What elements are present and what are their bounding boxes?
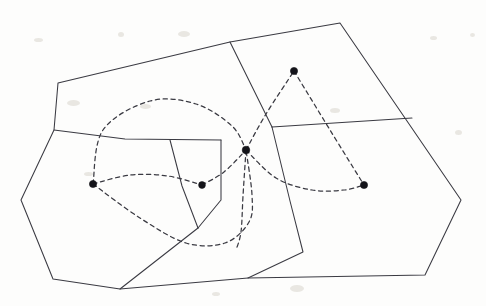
dashed-edge-middle-dot-to-hub	[202, 150, 246, 185]
solid-edge-upper-left-chord	[54, 130, 221, 140]
solid-edge-right-horizontal	[272, 118, 412, 127]
scan-speck	[84, 172, 93, 176]
dashed-edge-top-dot-to-right-dot	[294, 71, 364, 185]
scan-speck	[140, 104, 151, 109]
solid-edge-inner-cell-spine	[170, 140, 198, 228]
solid-edge-center-descent	[248, 127, 303, 278]
scan-speck	[470, 33, 475, 37]
vertex-hub-dot	[242, 146, 250, 154]
vertex-middle-dot	[199, 182, 206, 189]
scan-speck	[455, 130, 462, 135]
scan-speck	[330, 108, 340, 113]
scan-speck	[67, 100, 80, 106]
dashed-edge-hub-to-right-dot-arc	[246, 150, 364, 191]
scan-speck	[34, 38, 43, 42]
solid-edge-long-diagonal	[120, 228, 198, 289]
dashed-edge-hub-to-top-dot	[246, 71, 294, 150]
scan-speck	[212, 292, 220, 296]
dashed-edge-left-dot-to-lower-arc	[93, 150, 252, 246]
scan-speck	[118, 32, 124, 37]
scan-speck	[290, 285, 304, 292]
scan-speck	[178, 31, 190, 37]
dashed-edge-left-dot-to-hub-upper-arc	[93, 99, 246, 184]
scan-speck	[430, 36, 437, 40]
vertex-top-dot	[290, 67, 297, 74]
dashed-edge-layer	[93, 71, 364, 250]
vertex-left-dot	[89, 180, 96, 187]
diagram-svg	[0, 0, 486, 306]
vertex-layer	[89, 67, 367, 188]
diagram-canvas	[0, 0, 486, 306]
scan-artifact-layer	[34, 31, 475, 296]
dashed-edge-left-dot-to-middle-dot	[93, 174, 202, 185]
vertex-right-dot	[360, 181, 367, 188]
